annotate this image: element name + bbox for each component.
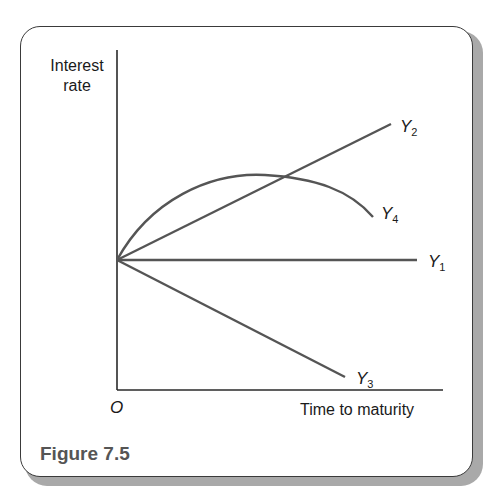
series-y4-label: Y4 xyxy=(381,204,398,225)
origin-label: O xyxy=(110,398,123,418)
series-y3-label: Y3 xyxy=(356,369,373,390)
series-y2-label: Y2 xyxy=(400,117,417,138)
series-y4-line xyxy=(117,175,373,260)
series-y3-line xyxy=(117,260,345,377)
y-axis-label: Interest rate xyxy=(37,56,117,96)
figure-caption: Figure 7.5 xyxy=(40,443,130,465)
x-axis-label: Time to maturity xyxy=(300,400,414,420)
series-y2-line xyxy=(117,124,391,260)
series-y1-label: Y1 xyxy=(428,252,445,273)
